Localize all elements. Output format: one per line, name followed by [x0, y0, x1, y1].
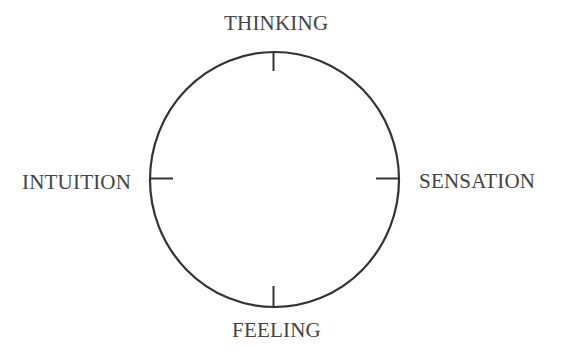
label-feeling: FEELING	[232, 320, 321, 341]
typology-diagram: THINKING INTUITION SENSATION FEELING	[0, 0, 570, 357]
function-circle	[150, 52, 399, 307]
label-thinking: THINKING	[224, 13, 328, 34]
label-sensation: SENSATION	[419, 171, 535, 192]
label-intuition: INTUITION	[22, 172, 131, 193]
